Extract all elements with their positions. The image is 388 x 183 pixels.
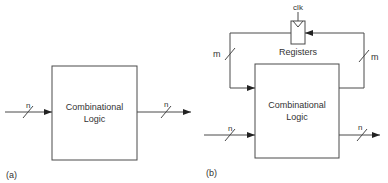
combinational-logic-block-b bbox=[255, 64, 339, 158]
clock-label: clk bbox=[293, 3, 304, 12]
feedback-wire-left bbox=[230, 33, 291, 88]
combinational-logic-block-a bbox=[52, 66, 137, 160]
caption-b: (b) bbox=[206, 168, 217, 178]
register-block bbox=[291, 21, 305, 44]
caption-a: (a) bbox=[6, 170, 17, 180]
diagram-canvas: Combinational Logic n n (a) Combinationa… bbox=[0, 0, 388, 183]
output-width-a: n bbox=[164, 100, 168, 109]
register-label: Registers bbox=[279, 47, 318, 57]
feedback-wire-right bbox=[305, 33, 364, 88]
feedback-right-width: m bbox=[371, 52, 379, 62]
block-a-label-1: Combinational bbox=[66, 102, 124, 112]
block-b-label-2: Logic bbox=[286, 112, 308, 122]
diagram-a: Combinational Logic n n (a) bbox=[5, 66, 191, 180]
input-width-a: n bbox=[26, 101, 30, 110]
input-width-b: n bbox=[228, 124, 232, 133]
clock-triangle-icon bbox=[293, 21, 303, 27]
block-b-label-1: Combinational bbox=[268, 100, 326, 110]
block-a-label-2: Logic bbox=[84, 114, 106, 124]
diagram-b: Combinational Logic clk Registers m m n … bbox=[204, 3, 380, 178]
feedback-left-width: m bbox=[213, 49, 221, 59]
output-width-b: n bbox=[358, 123, 362, 132]
